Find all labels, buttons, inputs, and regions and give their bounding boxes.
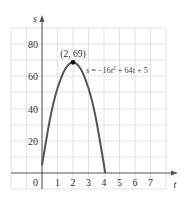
y-tick-label: 40	[28, 104, 38, 115]
y-tick-label: 60	[28, 71, 38, 82]
y-tick-label: 80	[28, 39, 38, 50]
parabola-curve	[42, 63, 105, 173]
equation-label: s = −16t2 + 64t + 5	[86, 65, 148, 76]
vertex-point	[71, 60, 76, 65]
y-tick-label: 20	[28, 136, 38, 147]
y-axis-arrow-icon	[40, 15, 45, 22]
x-tick-label: 4	[102, 177, 107, 188]
x-tick-label: 6	[133, 177, 138, 188]
x-tick-labels: 0 1 2 3 4 5 6 7	[33, 177, 153, 188]
y-tick-labels: 80 60 40 20	[28, 39, 38, 147]
parabola-chart: 80 60 40 20 0 1 2 3 4 5 6 7 s t (2, 69) …	[0, 0, 184, 197]
x-tick-label: 3	[86, 177, 91, 188]
x-axis-label: t	[174, 179, 177, 190]
vertex-label: (2, 69)	[60, 49, 85, 60]
x-tick-label: 2	[71, 177, 76, 188]
origin-label: 0	[33, 177, 38, 188]
x-tick-label: 1	[55, 177, 60, 188]
x-tick-label: 5	[117, 177, 122, 188]
x-axis-arrow-icon	[171, 171, 178, 176]
y-axis-label: s	[33, 13, 37, 24]
equation-part: + 5	[135, 66, 148, 75]
x-tick-label: 7	[148, 177, 153, 188]
equation-part: + 64	[116, 66, 133, 75]
equation-part: = −16	[89, 66, 111, 75]
